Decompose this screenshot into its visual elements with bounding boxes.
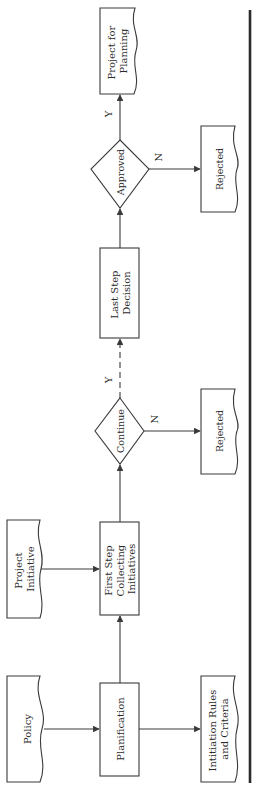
node-text: Intitiation Rules: [207, 690, 218, 772]
node-text: Rejected: [214, 148, 225, 190]
node-text: Rejected: [214, 410, 225, 452]
node-approved: Approved: [91, 140, 149, 208]
node-text: Initiatives: [126, 544, 137, 595]
node-text: and Criteria: [219, 698, 230, 760]
node-text: First Step: [103, 545, 114, 595]
node-text: Planification: [115, 697, 126, 761]
node-text: Last Step: [109, 271, 120, 319]
svg-text:Project Initiative: Project Initiative: [13, 546, 36, 592]
svg-text:Project for Planning: Project for Planning: [106, 22, 129, 79]
node-rejected-1: Rejected: [201, 389, 238, 474]
label-continue-no: N: [149, 414, 160, 423]
node-text: Collecting: [115, 544, 126, 596]
node-first-step: First Step Collecting Initiatives: [100, 522, 139, 615]
node-planification: Planification: [100, 683, 139, 776]
node-rejected-2: Rejected: [201, 126, 238, 212]
label-approved-no: N: [153, 152, 164, 161]
node-policy: Policy: [7, 676, 43, 782]
label-continue-yes: Y: [103, 376, 114, 384]
node-text: Continue: [115, 409, 126, 453]
node-last-step: Last Step Decision: [100, 248, 139, 338]
label-approved-yes: Y: [103, 110, 114, 118]
svg-text:Intitiation Rules and Cr: Intitiation Rules and Criteria: [207, 686, 230, 771]
flowchart-canvas: N Y N Y Policy Planification Intitiation…: [0, 0, 261, 812]
node-text: Policy: [22, 714, 33, 744]
node-text: Project for: [106, 25, 117, 79]
node-text: Decision: [121, 271, 132, 315]
node-text: Initiative: [25, 546, 36, 592]
node-text: Approved: [115, 149, 126, 196]
svg-text:Continue: Continue: [115, 409, 126, 453]
svg-text:Approved: Approved: [115, 149, 126, 196]
node-project-for-planning: Project for Planning: [100, 8, 137, 94]
node-text: Project: [13, 553, 24, 589]
node-continue: Continue: [95, 398, 144, 464]
node-project-initiative: Project Initiative: [7, 520, 42, 618]
svg-text:Policy: Policy: [22, 714, 33, 744]
node-initiation-rules: Intitiation Rules and Criteria: [201, 676, 238, 782]
node-text: Planning: [118, 28, 129, 73]
svg-text:Last Step Decision: Last Step Decision: [109, 267, 132, 318]
svg-text:Rejected: Rejected: [214, 410, 225, 452]
svg-text:Planification: Planification: [115, 697, 126, 761]
svg-text:First Step Collecting: First Step Collecting Initiatives: [103, 542, 137, 597]
svg-text:Rejected: Rejected: [214, 148, 225, 190]
